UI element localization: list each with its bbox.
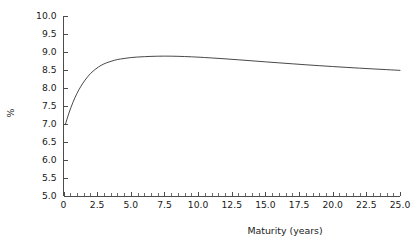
x-tick-label: 25.0 [390,199,411,210]
y-tick-label: 5.0 [42,190,57,201]
y-tick-label: 7.5 [42,100,57,111]
yield-curve-chart: 5.05.56.06.57.07.58.08.59.09.510.0 02.55… [0,0,418,250]
y-tick-label: 8.5 [42,64,57,75]
y-axis-title: % [5,108,16,117]
y-tick-label: 9.5 [42,28,57,39]
x-tick-label: 15.0 [255,199,276,210]
x-tick-label: 20.0 [322,199,343,210]
x-tick-label: 10.0 [188,199,209,210]
x-tick-label: 0 [61,199,67,210]
x-tick-label: 12.5 [222,199,243,210]
y-tick-label: 10.0 [36,10,57,21]
y-tick-label: 7.0 [42,118,57,129]
y-tick-label: 9.0 [42,46,57,57]
x-tick-label: 17.5 [289,199,310,210]
y-tick-label: 6.5 [42,136,57,147]
chart-figure: 5.05.56.06.57.07.58.08.59.09.510.0 02.55… [0,0,418,250]
x-tick-label: 2.5 [90,199,105,210]
x-tick-label: 22.5 [356,199,377,210]
x-axis-title: Maturity (years) [247,225,322,236]
x-tick-label: 7.5 [157,199,172,210]
x-tick-label: 5.0 [123,199,138,210]
y-tick-label: 8.0 [42,82,57,93]
y-tick-label: 5.5 [42,172,57,183]
y-tick-label: 6.0 [42,154,57,165]
chart-background [0,0,418,250]
